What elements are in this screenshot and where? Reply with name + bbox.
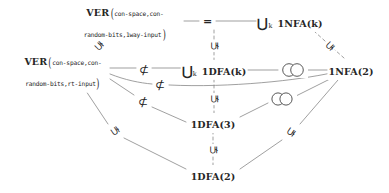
close-paren-icon: )	[97, 76, 100, 92]
relation-subsetneq-diagonal-bottomright: ⊊	[283, 124, 299, 140]
node-ver-1way-arg1: con-space,con-	[114, 10, 163, 17]
edge-verrt-1dfa3-a	[110, 79, 134, 95]
node-union-1dfa-k-main: 1DFA(k)	[202, 66, 247, 77]
node-1nfa-2-main: 1NFA(2)	[328, 66, 373, 77]
relation-not-subset-mid: ⊄	[137, 64, 150, 76]
relation-subsetneq-vertical-top: ⊊	[209, 40, 220, 52]
close-paren-icon: )	[162, 27, 165, 43]
node-1dfa-2[interactable]: 1DFA(2)	[190, 165, 237, 185]
node-ver-1way[interactable]: VER(con-space,con- random-bits,1way-inpu…	[83, 1, 168, 44]
edge-1nfa2-union1nfa-a	[335, 50, 344, 58]
node-1dfa-3-main: 1DFA(3)	[191, 119, 236, 130]
node-union-1nfa-k-main: 1NFA(k)	[277, 18, 322, 29]
node-ver-rt-arg1: con-space,con-	[52, 59, 101, 66]
node-ver-rt[interactable]: VER(con-space,con- random-bits,rt-input)	[23, 50, 102, 93]
relation-subsetneq-vertical-mid: ⊊	[209, 93, 220, 105]
node-1dfa-2-main: 1DFA(2)	[191, 171, 236, 182]
bigcup-icon: ⋃	[257, 16, 268, 31]
incomparable-upper-icon	[280, 62, 308, 78]
node-ver-1way-arg2: random-bits,1way-input	[84, 31, 162, 38]
edge-1dfa2-verrt-a	[124, 138, 186, 169]
edge-1dfa3-1nfa2-a	[240, 103, 268, 117]
relation-equals-top: =	[201, 16, 212, 27]
open-paren-icon: (	[110, 6, 113, 22]
relation-subsetneq-vertical-bottom: ⊊	[208, 144, 219, 156]
relation-subsetneq-diagonal-topright: ⊊	[322, 38, 338, 54]
edge-1dfa2-1nfa2-a	[240, 140, 282, 169]
edge-1dfa2-1nfa2-b	[300, 80, 338, 124]
node-union-1nfa-k-sub: k	[268, 22, 272, 30]
relation-subsetneq-diagonal-bottomleft: ⊊	[107, 123, 123, 139]
bigcup-icon: ⋃	[182, 64, 193, 79]
relation-not-subset-low: ⊄	[153, 79, 166, 91]
relation-not-subset-diag: ⊄	[136, 96, 149, 108]
node-union-1nfa-k[interactable]: ⋃k 1NFA(k)	[256, 12, 323, 32]
edge-1dfa3-1nfa2-b	[296, 78, 332, 96]
edge-1nfa2-union1nfa-b	[315, 32, 325, 41]
edge-verrt-1dfa3-b	[152, 107, 186, 122]
incomparable-lower-icon	[269, 91, 297, 107]
node-ver-rt-head: VER	[24, 56, 47, 67]
node-ver-rt-arg2: random-bits,rt-input	[25, 80, 96, 87]
node-union-1dfa-k-sub: k	[193, 70, 197, 78]
containment-diagram: VER(con-space,con- random-bits,1way-inpu…	[0, 0, 389, 193]
node-ver-1way-head: VER	[86, 7, 109, 18]
open-paren-icon: (	[48, 55, 51, 71]
node-1nfa-2[interactable]: 1NFA(2)	[327, 60, 374, 80]
node-union-1dfa-k[interactable]: ⋃k 1DFA(k)	[181, 60, 248, 80]
node-1dfa-3[interactable]: 1DFA(3)	[190, 113, 237, 133]
